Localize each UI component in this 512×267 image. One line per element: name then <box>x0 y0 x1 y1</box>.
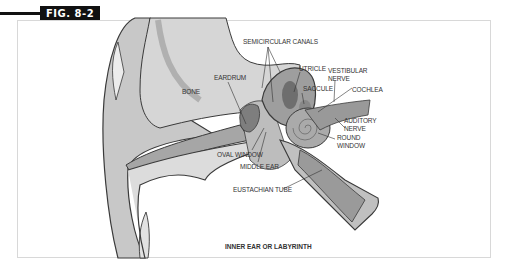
label-vestibular-nerve-1: VESTIBULAR <box>328 67 368 74</box>
label-middle-ear: MIDDLE EAR <box>240 163 279 170</box>
label-auditory-nerve-1: AUDITORY <box>344 117 377 124</box>
utricle-shape <box>282 81 298 109</box>
label-eardrum: EARDRUM <box>214 74 246 81</box>
label-semicircular-canals: SEMICIRCULAR CANALS <box>243 38 319 45</box>
figure-caption: INNER EAR OR LABYRINTH <box>225 243 312 250</box>
label-cochlea: COCHLEA <box>352 86 383 93</box>
label-vestibular-nerve-2: NERVE <box>328 75 351 82</box>
label-round-window-2: WINDOW <box>337 142 366 149</box>
label-utricle: UTRICLE <box>299 65 327 72</box>
label-round-window-1: ROUND <box>337 134 361 141</box>
label-oval-window: OVAL WINDOW <box>217 151 264 158</box>
ear-diagram: SEMICIRCULAR CANALS EARDRUM BONE UTRICLE… <box>0 0 512 267</box>
lobe <box>139 212 149 258</box>
label-auditory-nerve-2: NERVE <box>344 125 367 132</box>
label-eustachian-tube: EUSTACHIAN TUBE <box>233 186 293 193</box>
label-saccule: SACCULE <box>303 85 334 92</box>
label-bone: BONE <box>182 88 201 95</box>
